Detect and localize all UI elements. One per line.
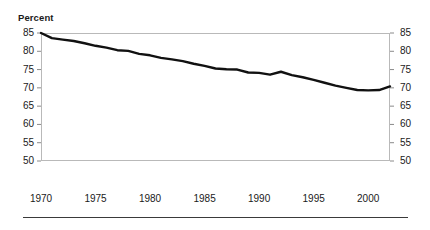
y-axis-tick-label-left: 55 bbox=[8, 138, 34, 148]
x-axis-tick-label: 2000 bbox=[348, 194, 388, 204]
percent-line-chart-figure: Percent 5055606570758085 505560657075808… bbox=[0, 0, 430, 230]
y-axis-tick-label-right: 55 bbox=[400, 138, 426, 148]
y-axis-tick-label-right: 80 bbox=[400, 46, 426, 56]
x-axis-tick-label: 1990 bbox=[239, 194, 279, 204]
y-axis-tick-label-left: 70 bbox=[8, 83, 34, 93]
x-axis-tick-label: 1980 bbox=[130, 194, 170, 204]
y-axis-tick-label-right: 70 bbox=[400, 83, 426, 93]
y-axis-tick-label-left: 80 bbox=[8, 46, 34, 56]
y-axis-tick-label-left: 65 bbox=[8, 101, 34, 111]
y-axis-tick-label-right: 85 bbox=[400, 28, 426, 38]
y-axis-tick-label-left: 75 bbox=[8, 65, 34, 75]
y-axis-tick-label-left: 60 bbox=[8, 119, 34, 129]
x-axis-tick-label: 1970 bbox=[21, 194, 61, 204]
footer-rule bbox=[23, 217, 408, 218]
x-axis-tick-label: 1995 bbox=[294, 194, 334, 204]
y-axis-tick-label-right: 65 bbox=[400, 101, 426, 111]
y-axis-tick-label-right: 75 bbox=[400, 65, 426, 75]
y-axis-tick-label-left: 50 bbox=[8, 156, 34, 166]
series-line-percent bbox=[41, 33, 390, 90]
y-axis-tick-label-right: 60 bbox=[400, 119, 426, 129]
y-axis-tick-label-left: 85 bbox=[8, 28, 34, 38]
y-axis-tick-label-right: 50 bbox=[400, 156, 426, 166]
x-axis-tick-label: 1975 bbox=[76, 194, 116, 204]
x-axis-tick-label: 1985 bbox=[185, 194, 225, 204]
